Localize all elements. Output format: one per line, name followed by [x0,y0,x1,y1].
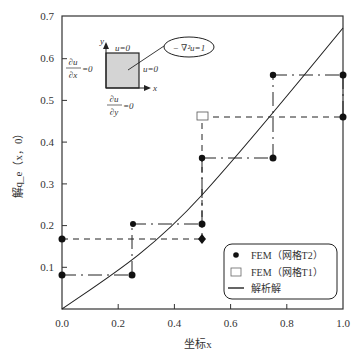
data-point [270,72,276,78]
inset-diagram: y x u=0 u=0 ∂u ∂x =0 ∂u ∂y =0 − ∇²u=1 [66,36,214,117]
x-tick-label: 0.8 [280,317,294,329]
x-tick-label: 0.6 [224,317,238,329]
inset-left-bc-eq: =0 [82,64,93,74]
y-tick-label: 0.6 [40,52,54,64]
data-point [199,221,206,228]
data-point [340,72,347,79]
y-axis-title: 解q_e（x，0） [11,128,24,199]
inset-bottom-bc-denominator: ∂y [110,107,118,117]
inset-equation: − ∇²u=1 [173,43,205,53]
inset-bottom-bc-numerator: ∂u [110,94,119,104]
data-point [130,221,136,227]
inset-right-bc: u=0 [143,64,159,74]
legend-square-icon [231,268,241,276]
x-tick-label: 0.0 [55,317,69,329]
y-tick-label: 0.3 [40,178,54,190]
diamond-marker [198,234,206,244]
inset-bottom-bc-eq: =0 [123,101,134,111]
legend-label-analytic: 解析解 [251,282,281,294]
x-axis [118,304,287,309]
x-axis-title: 坐标x [184,337,212,350]
x-tick-label: 1.0 [336,317,350,329]
y-tick-label: 0.7 [40,10,54,22]
inset-left-bc-denominator: ∂x [69,70,77,80]
y-tick-label: 0.5 [40,94,54,106]
chart: 0.1 0.2 0.3 0.4 0.5 0.6 0.7 0.0 0.2 0.4 … [0,0,361,359]
fem-t1-square-marker [197,112,208,120]
legend: FEM（网格T2） FEM（网格T1） 解析解 [224,244,337,299]
legend-label-t2: FEM（网格T2） [251,249,323,261]
inset-x-label: x [152,83,157,93]
legend-circle-icon [233,252,239,258]
inset-x-arrow-icon [144,85,151,91]
x-tick-label: 0.4 [168,317,182,329]
inset-top-bc: u=0 [115,43,131,53]
legend-label-t1: FEM（网格T1） [251,266,323,278]
data-point [199,155,205,161]
y-tick-label: 0.1 [40,261,54,273]
y-tick-labels: 0.1 0.2 0.3 0.4 0.5 0.6 0.7 [40,10,54,273]
inset-y-label: y [99,36,104,46]
data-point [340,114,347,121]
x-tick-labels: 0.0 0.2 0.4 0.6 0.8 1.0 [55,317,350,329]
data-point [59,272,66,279]
y-tick-label: 0.2 [40,219,54,231]
data-point [59,236,66,243]
x-tick-label: 0.2 [111,317,125,329]
inset-left-bc-numerator: ∂u [69,57,78,67]
inset-domain [106,53,139,88]
data-point [270,155,277,162]
y-tick-label: 0.4 [40,136,54,148]
data-point [129,272,136,279]
